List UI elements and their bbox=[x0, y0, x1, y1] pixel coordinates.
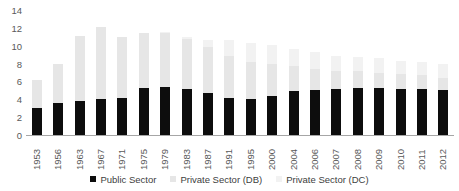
bar-segment-private-sector-db bbox=[396, 74, 406, 88]
x-axis-tick: 1956 bbox=[47, 137, 68, 170]
stacked-bar[interactable] bbox=[310, 52, 320, 135]
y-axis-tick-label: 4 bbox=[17, 94, 22, 105]
x-axis-tick-label: 1987 bbox=[203, 137, 213, 170]
bar-segment-private-sector-db bbox=[310, 69, 320, 90]
stacked-bar[interactable] bbox=[267, 45, 277, 135]
stacked-bar[interactable] bbox=[353, 57, 363, 135]
bar-segment-private-sector-dc bbox=[289, 49, 299, 66]
x-axis-tick: 2010 bbox=[390, 137, 411, 170]
stacked-bar[interactable] bbox=[374, 58, 384, 135]
bar-segment-private-sector-dc bbox=[374, 58, 384, 72]
stacked-bar[interactable] bbox=[139, 33, 149, 135]
bar-slot bbox=[390, 10, 411, 135]
stacked-bar[interactable] bbox=[32, 80, 42, 135]
bar-segment-public-sector bbox=[310, 90, 320, 135]
stacked-bar[interactable] bbox=[117, 37, 127, 135]
x-axis-tick-label: 1956 bbox=[53, 137, 63, 170]
stacked-bar[interactable] bbox=[331, 56, 341, 135]
bar-segment-public-sector bbox=[396, 89, 406, 135]
bar-segment-private-sector-dc bbox=[267, 45, 277, 64]
bar-segment-public-sector bbox=[182, 89, 192, 135]
bar-segment-private-sector-dc bbox=[224, 40, 234, 56]
bar-segment-public-sector bbox=[267, 96, 277, 135]
bar-segment-private-sector-db bbox=[117, 37, 127, 98]
x-axis-tick-label: 1967 bbox=[96, 137, 106, 170]
legend-item[interactable]: Private Sector (DB) bbox=[170, 174, 262, 185]
bar-segment-public-sector bbox=[224, 98, 234, 135]
y-axis-tick-label: 12 bbox=[11, 22, 22, 33]
legend-label: Private Sector (DC) bbox=[286, 174, 368, 185]
bar-segment-private-sector-dc bbox=[310, 52, 320, 69]
x-axis-tick: 1975 bbox=[133, 137, 154, 170]
legend-label: Private Sector (DB) bbox=[180, 174, 262, 185]
bar-segment-private-sector-dc bbox=[353, 57, 363, 70]
bar-slot bbox=[433, 10, 454, 135]
x-axis-tick: 2006 bbox=[304, 137, 325, 170]
x-axis-line bbox=[26, 135, 454, 136]
bar-segment-private-sector-dc bbox=[396, 61, 406, 74]
stacked-bar[interactable] bbox=[396, 61, 406, 135]
legend-swatch-private-dc bbox=[276, 176, 282, 182]
stacked-bar[interactable] bbox=[160, 32, 170, 135]
x-axis-tick-label: 2004 bbox=[289, 137, 299, 170]
bar-slot bbox=[69, 10, 90, 135]
x-axis-tick-label: 2008 bbox=[353, 137, 363, 170]
stacked-bar[interactable] bbox=[224, 40, 234, 135]
x-axis-tick-label: 2007 bbox=[331, 137, 341, 170]
bar-segment-private-sector-db bbox=[289, 66, 299, 91]
stacked-bar-chart: 14121086420 1953195619631967197119751979… bbox=[0, 0, 459, 191]
bar-slot bbox=[283, 10, 304, 135]
plot-area bbox=[26, 10, 454, 135]
bar-slot bbox=[47, 10, 68, 135]
stacked-bar[interactable] bbox=[246, 43, 256, 135]
bar-segment-public-sector bbox=[246, 99, 256, 135]
x-axis-tick: 1979 bbox=[154, 137, 175, 170]
x-axis-tick-label: 1983 bbox=[182, 137, 192, 170]
bar-segment-private-sector-db bbox=[331, 71, 341, 90]
legend-item[interactable]: Private Sector (DC) bbox=[276, 174, 368, 185]
bar-segment-private-sector-db bbox=[96, 27, 106, 99]
bar-segment-private-sector-db bbox=[224, 56, 234, 98]
x-axis-tick: 1987 bbox=[197, 137, 218, 170]
stacked-bar[interactable] bbox=[53, 64, 63, 135]
x-axis-tick: 2007 bbox=[326, 137, 347, 170]
x-axis-tick-label: 1971 bbox=[117, 137, 127, 170]
x-axis-tick: 2009 bbox=[369, 137, 390, 170]
bar-segment-private-sector-db bbox=[32, 80, 42, 109]
x-axis-tick: 1991 bbox=[219, 137, 240, 170]
x-axis-tick-label: 2012 bbox=[438, 137, 448, 170]
x-axis-tick: 1953 bbox=[26, 137, 47, 170]
x-axis-tick: 1963 bbox=[69, 137, 90, 170]
bar-segment-public-sector bbox=[139, 88, 149, 135]
bar-segment-public-sector bbox=[417, 89, 427, 135]
y-axis: 14121086420 bbox=[0, 0, 26, 142]
legend-item[interactable]: Public Sector bbox=[90, 174, 156, 185]
stacked-bar[interactable] bbox=[417, 62, 427, 135]
bar-slot bbox=[197, 10, 218, 135]
bar-slot bbox=[347, 10, 368, 135]
bar-slot bbox=[154, 10, 175, 135]
bar-slot bbox=[369, 10, 390, 135]
x-axis-tick-label: 1953 bbox=[32, 137, 42, 170]
stacked-bar[interactable] bbox=[289, 49, 299, 135]
legend-label: Public Sector bbox=[100, 174, 156, 185]
x-axis-tick-label: 2011 bbox=[417, 137, 427, 170]
stacked-bar[interactable] bbox=[438, 64, 448, 135]
x-axis-tick-label: 1995 bbox=[246, 137, 256, 170]
x-axis-tick-label: 1979 bbox=[160, 137, 170, 170]
bar-segment-public-sector bbox=[53, 103, 63, 135]
bar-segment-private-sector-db bbox=[417, 75, 427, 88]
bar-slot bbox=[26, 10, 47, 135]
x-axis-tick: 1971 bbox=[112, 137, 133, 170]
x-axis-tick: 1995 bbox=[240, 137, 261, 170]
bar-segment-public-sector bbox=[160, 87, 170, 135]
bar-slot bbox=[326, 10, 347, 135]
stacked-bar[interactable] bbox=[182, 37, 192, 135]
legend-swatch-private-db bbox=[170, 176, 176, 182]
stacked-bar[interactable] bbox=[96, 27, 106, 135]
stacked-bar[interactable] bbox=[203, 40, 213, 135]
stacked-bar[interactable] bbox=[75, 36, 85, 135]
bar-segment-public-sector bbox=[75, 101, 85, 135]
x-axis-tick-label: 1991 bbox=[224, 137, 234, 170]
bar-segment-private-sector-dc bbox=[417, 62, 427, 75]
